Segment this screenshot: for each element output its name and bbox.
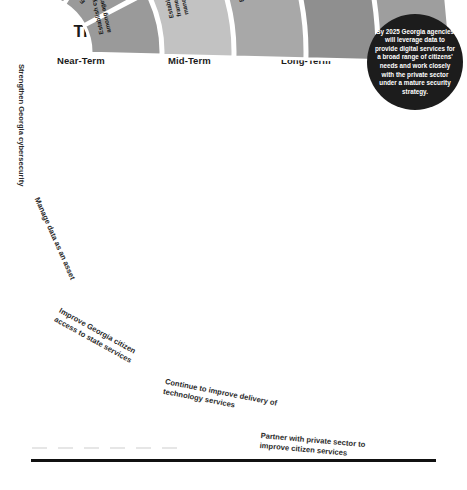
row-label-cybersecurity: Strengthen Georgia cybersecurity	[17, 64, 26, 186]
vision-statement-badge: By 2025 Georgia agencies will leverage d…	[367, 14, 463, 110]
infographic-canvas: Timeline for Georgia's 2025 IT Vision Ne…	[0, 0, 467, 490]
bottom-divider	[31, 459, 436, 462]
decorative-tick-marks	[32, 447, 177, 449]
